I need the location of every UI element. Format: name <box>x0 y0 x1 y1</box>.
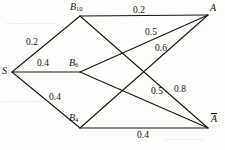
diagram-canvas: ————————————————————— SB10B6B4AA 0.20.40… <box>0 0 225 150</box>
edge-weight-b10-a: 0.2 <box>133 6 145 16</box>
node-label-b4: B4 <box>69 113 78 124</box>
node-label-s: S <box>2 66 7 76</box>
edge-weight-s-b10: 0.2 <box>26 38 38 48</box>
edge-B6-to-A <box>80 15 208 72</box>
edge-weight-b6-a: 0.5 <box>145 28 157 38</box>
edge-weight-b4-abar: 0.4 <box>137 131 149 141</box>
node-label-a: A <box>210 3 216 13</box>
edge-weight-b6-abar: 0.8 <box>174 85 186 95</box>
edge-weight-s-b4: 0.4 <box>49 93 61 103</box>
node-label-abar: A <box>211 113 217 124</box>
node-label-b6: B6 <box>69 58 78 69</box>
node-label-b10: B10 <box>70 2 82 13</box>
edge-weight-b4-a: 0.6 <box>155 44 167 54</box>
edge-weight-b10-abar: 0.5 <box>151 87 163 97</box>
graph-edges-svg <box>0 0 225 150</box>
edge-weight-s-b6: 0.4 <box>37 59 49 69</box>
edge-B6-to-Abar <box>80 72 208 128</box>
